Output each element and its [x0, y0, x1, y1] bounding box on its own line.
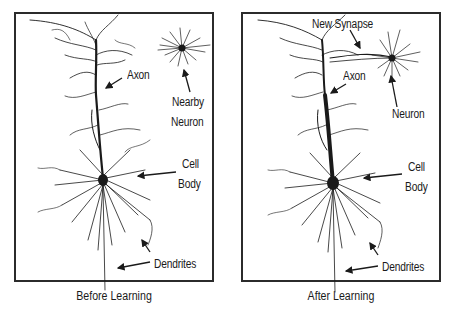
new-synapse-arrow [350, 30, 360, 48]
after-arrows [331, 30, 402, 271]
body-label: Body [178, 178, 201, 191]
cell-label: Cell [182, 158, 199, 171]
axon-label-after: Axon [343, 70, 366, 83]
cell-body-arrow [138, 172, 176, 176]
neuron-arrow [391, 76, 397, 107]
nearby-neuron-drawing [158, 28, 210, 66]
dendrites-label: Dendrites [154, 258, 196, 271]
body-label-after: Body [405, 181, 428, 194]
after-neuron-drawing [258, 15, 420, 292]
nearby-neuron-arrow [184, 70, 190, 92]
new-synapse-label: New Synapse [312, 18, 373, 31]
cell-label-after: Cell [408, 161, 425, 174]
axon-arrow-after [331, 84, 346, 93]
nearby-label-line1: Nearby [172, 96, 204, 109]
dendrites-arrow-2 [142, 240, 150, 252]
cell-body-arrow-after [364, 174, 402, 178]
dendrites-arrow-after-2 [370, 243, 378, 255]
axon-arrow [106, 78, 122, 88]
before-neuron-drawing [30, 15, 210, 290]
nearby-label-line2: Neuron [171, 116, 203, 129]
caption-before-learning: Before Learning [29, 289, 199, 303]
dendrites-arrow-after [346, 266, 378, 271]
neuron-label: Neuron [392, 108, 424, 121]
dendrites-arrow [118, 262, 150, 268]
caption-after-learning: After Learning [256, 289, 426, 303]
axon-label: Axon [127, 69, 150, 82]
dendrites-label-after: Dendrites [382, 261, 424, 274]
